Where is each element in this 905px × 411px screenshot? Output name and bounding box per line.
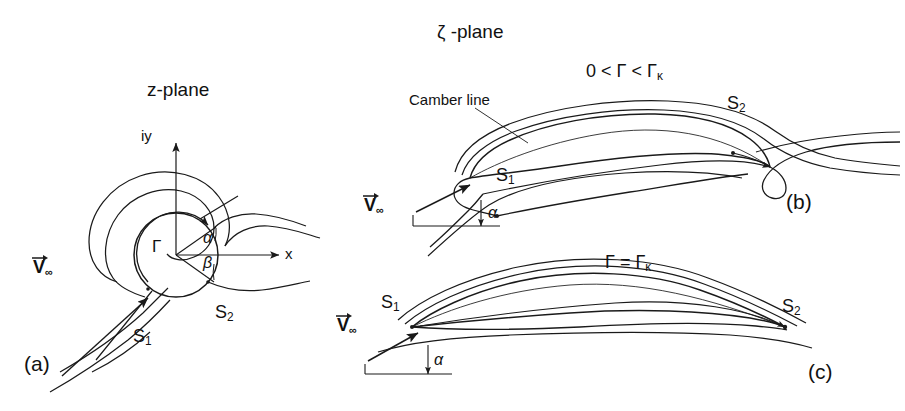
circulation-condition-b: 0 < Γ < Γκ bbox=[586, 62, 663, 83]
streamline-c-upper-outer-1 bbox=[398, 259, 806, 323]
s1-letter-a: S bbox=[133, 326, 145, 346]
s2-letter-b: S bbox=[727, 93, 739, 113]
camber-line-label: Camber line bbox=[409, 92, 490, 107]
stagnation-label-s2-c: S2 bbox=[782, 297, 801, 318]
zeta-plane-title: ζ -plane bbox=[437, 22, 503, 41]
s2-subscript-b: 2 bbox=[739, 101, 746, 115]
condition-text-c: Γ = Γ bbox=[605, 252, 645, 272]
s2-letter-c: S bbox=[782, 296, 794, 316]
streamline-inner-dividing bbox=[96, 196, 238, 360]
circulation-arc-arrow bbox=[137, 212, 208, 282]
s1-subscript-b: 1 bbox=[508, 173, 515, 187]
alpha-arc bbox=[215, 228, 216, 241]
streamline-c-interior-shear bbox=[420, 302, 785, 327]
axis-label-x: x bbox=[285, 246, 293, 261]
streamline-c-lower-inner bbox=[412, 323, 787, 330]
stagnation-label-s2-b: S2 bbox=[727, 94, 746, 115]
stagnation-point-s2-c bbox=[783, 325, 787, 329]
s2-letter-a: S bbox=[215, 302, 227, 322]
streamline-b-lower-dividing bbox=[497, 174, 748, 216]
stagnation-point-s1-a bbox=[146, 287, 150, 291]
s1-subscript-c: 1 bbox=[393, 300, 400, 314]
angle-beta-a: β bbox=[203, 255, 212, 271]
z-plane-title: z-plane bbox=[147, 80, 209, 99]
angle-alpha-b: α bbox=[488, 205, 497, 221]
freestream-arrow-b bbox=[416, 185, 470, 212]
panel-c-airfoil-kutta bbox=[365, 259, 812, 374]
stagnation-point-s1-c bbox=[410, 325, 414, 329]
panel-tag-c: (c) bbox=[808, 361, 833, 382]
streamline-b-lower-outer bbox=[428, 172, 742, 256]
circulation-condition-c: Γ = Γκ bbox=[605, 253, 651, 274]
s2-subscript-a: 2 bbox=[227, 310, 234, 324]
stagnation-label-s1-a: S1 bbox=[133, 327, 152, 348]
freestream-label-a: V∞ bbox=[33, 258, 53, 279]
s1-letter-b: S bbox=[496, 165, 508, 185]
stagnation-point-s2-a bbox=[206, 280, 210, 284]
freestream-vector-a: V bbox=[33, 258, 45, 276]
diagram-svg bbox=[0, 0, 905, 411]
axis-label-iy: iy bbox=[141, 128, 152, 143]
stagnation-label-s2-a: S2 bbox=[215, 303, 234, 324]
s1-letter-c: S bbox=[381, 292, 393, 312]
freestream-subscript-b: ∞ bbox=[376, 204, 384, 216]
streamline-lower-left-incoming bbox=[50, 300, 170, 392]
stagnation-label-s1-b: S1 bbox=[496, 166, 515, 187]
freestream-vector-c: V bbox=[337, 316, 349, 334]
streamline-upper-right-exit bbox=[225, 226, 320, 246]
s1-subscript-a: 1 bbox=[145, 334, 152, 348]
freestream-vector-b: V bbox=[364, 196, 376, 214]
circulation-symbol-a: Γ bbox=[152, 238, 161, 255]
panel-tag-a: (a) bbox=[24, 353, 50, 374]
condition-text-b: 0 < Γ < Γ bbox=[586, 61, 657, 81]
panel-tag-b: (b) bbox=[786, 191, 812, 212]
freestream-label-c: V∞ bbox=[337, 316, 357, 337]
streamline-c-lower-outer bbox=[378, 332, 812, 352]
freestream-arrow-c bbox=[368, 333, 418, 361]
streamline-b-trailing-edge-wrap bbox=[762, 142, 900, 199]
airfoil-b-upper-surface bbox=[470, 114, 770, 178]
streamline-lower-right-exit bbox=[208, 281, 310, 291]
figure-canvas: ζ -plane z-plane iy x Γ α β S1 S2 V∞ (a)… bbox=[0, 0, 905, 411]
stagnation-point-s2-b bbox=[731, 151, 735, 155]
freestream-subscript-c: ∞ bbox=[349, 324, 357, 336]
condition-subscript-b: κ bbox=[657, 69, 663, 83]
vector-overbar-a bbox=[32, 253, 51, 262]
panel-a-cylinder-flow bbox=[50, 143, 320, 392]
angle-alpha-c: α bbox=[434, 352, 443, 368]
condition-subscript-c: κ bbox=[645, 260, 651, 274]
vector-overbar-b bbox=[363, 191, 382, 200]
s2-subscript-c: 2 bbox=[794, 304, 801, 318]
streamline-b-lower-incoming bbox=[430, 194, 483, 247]
freestream-label-b: V∞ bbox=[364, 196, 384, 217]
stagnation-label-s1-c: S1 bbox=[381, 293, 400, 314]
freestream-subscript-a: ∞ bbox=[45, 266, 53, 278]
panel-b-airfoil-flow bbox=[413, 101, 900, 256]
vector-overbar-c bbox=[336, 311, 355, 320]
angle-alpha-a: α bbox=[203, 230, 212, 246]
